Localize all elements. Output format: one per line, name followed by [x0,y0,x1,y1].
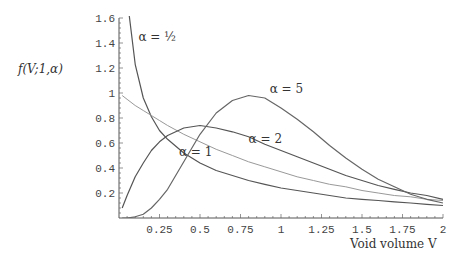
y-tick-label: 1.2 [95,63,115,75]
x-tick-label: 0.75 [227,224,253,236]
y-tick-label: 1.6 [95,13,115,25]
x-tick-label: 1 [278,224,285,236]
x-tick-label: 1.75 [389,224,415,236]
curve-annotation: α = 2 [249,132,282,146]
y-tick-label: 0.6 [95,138,115,150]
curve-annotation: α = 5 [270,82,303,96]
curve-annotation: α = 1 [179,145,212,159]
curve-annotation: α = ½ [138,30,175,44]
x-tick-label: 0.5 [190,224,210,236]
y-tick-label: 0.4 [95,163,115,175]
x-tick-label: 0.25 [146,224,172,236]
axes: 0.250.50.7511.251.51.7520.20.40.60.811.2… [95,13,446,236]
gamma-density-chart: 0.250.50.7511.251.51.7520.20.40.60.811.2… [0,0,458,259]
y-tick-label: 0.8 [95,113,115,125]
y-tick-label: 1 [108,88,115,100]
x-axis-label: Void volume V [349,237,437,251]
x-tick-label: 2 [440,224,447,236]
x-tick-label: 1.5 [352,224,372,236]
curve-series-3 [122,96,443,219]
y-tick-label: 1.4 [95,38,115,50]
y-tick-label: 0.2 [95,188,115,200]
x-tick-label: 1.25 [308,224,334,236]
y-axis-label: f(V;1,α) [17,62,63,76]
